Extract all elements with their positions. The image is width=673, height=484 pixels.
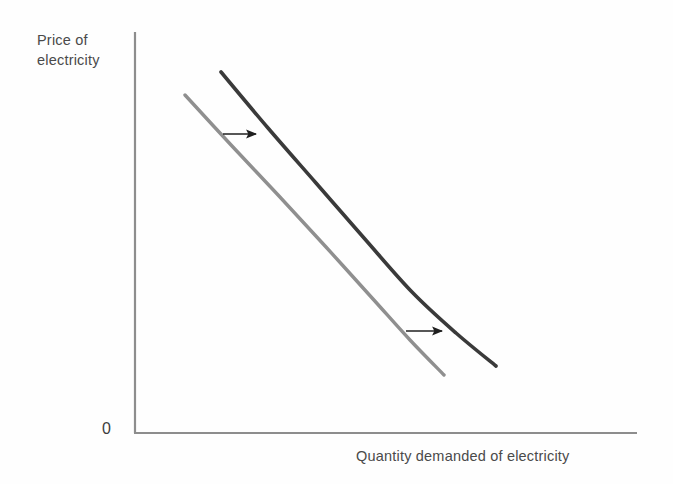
- shift-arrows: [223, 134, 442, 331]
- new-demand-curve: [221, 72, 496, 366]
- origin-label: 0: [102, 420, 111, 438]
- demand-curve-figure: Price ofelectricity Quantity demanded of…: [0, 0, 673, 484]
- original-demand-curve: [185, 95, 444, 375]
- y-axis-label-line2: electricity: [37, 52, 100, 68]
- y-axis-label: Price ofelectricity: [37, 30, 100, 70]
- y-axis-label-line1: Price of: [37, 32, 88, 48]
- axis-lines: [134, 32, 637, 433]
- demand-curves: [185, 72, 496, 375]
- x-axis-label: Quantity demanded of electricity: [356, 446, 570, 466]
- plot-area: [0, 0, 673, 484]
